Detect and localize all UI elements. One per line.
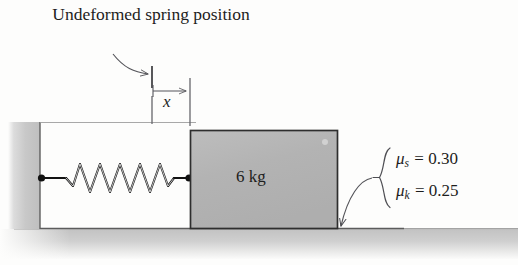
mu-subscript-kinetic: k: [405, 189, 411, 201]
block-mass-label: 6 kg: [236, 167, 266, 187]
spring-block-friction-diagram: Undeformed spring position x 6 kg μs = 0…: [0, 0, 518, 265]
ground: [0, 229, 518, 259]
wall: [8, 122, 196, 229]
displacement-dimension: [153, 78, 190, 126]
diagram-canvas: [0, 0, 518, 265]
caption-leader-arrow: [113, 54, 148, 74]
kinetic-friction-value: 0.25: [429, 181, 459, 200]
spring: [38, 164, 193, 192]
friction-leader-arrow: [341, 178, 372, 226]
equals-sign-static: =: [414, 149, 424, 168]
static-friction-value: 0.30: [428, 149, 458, 168]
mu-symbol-static: μ: [396, 149, 405, 168]
static-friction-coefficient: μs = 0.30: [396, 149, 458, 169]
kinetic-friction-coefficient: μk = 0.25: [396, 181, 459, 201]
mu-symbol-kinetic: μ: [396, 181, 405, 200]
equals-sign-kinetic: =: [415, 181, 425, 200]
mu-subscript-static: s: [405, 157, 410, 169]
displacement-label-x: x: [163, 92, 171, 112]
caption-undeformed-spring-position: Undeformed spring position: [36, 4, 266, 25]
friction-brace: [373, 148, 390, 208]
